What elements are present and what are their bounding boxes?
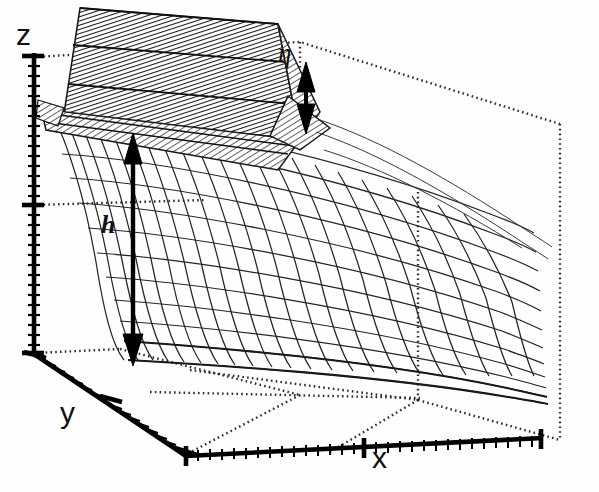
y-axis <box>24 352 197 456</box>
plot-canvas <box>0 0 599 492</box>
z-axis <box>22 53 44 356</box>
figure-3d-surface-plot: z y x h η <box>0 0 599 492</box>
x-axis-label: x <box>372 443 387 473</box>
bed-surface-mesh <box>52 109 548 404</box>
z-axis-label: z <box>16 20 31 50</box>
free-surface-mesh <box>36 8 330 170</box>
elevation-symbol-label: η <box>278 40 291 67</box>
y-axis-label: y <box>60 398 75 428</box>
free-surface-sheet-right <box>316 120 552 259</box>
depth-symbol-label: h <box>101 212 115 238</box>
x-axis <box>186 429 543 466</box>
